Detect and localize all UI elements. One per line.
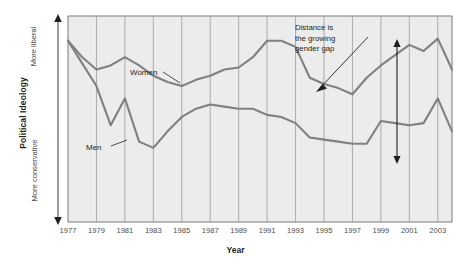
x-axis-tick-labels: 1977197919811983198519871989199119931995…	[68, 226, 452, 240]
x-axis-tick-label: 1997	[344, 226, 361, 235]
annotation-line-2: the growing	[295, 34, 369, 45]
x-axis-tick-label: 1979	[88, 226, 105, 235]
x-axis-tick-label: 1977	[60, 226, 77, 235]
gender-gap-annotation-text: Distance is the growing gender gap	[295, 23, 369, 55]
x-axis-tick-label: 1983	[145, 226, 162, 235]
x-axis-tick-label: 1991	[259, 226, 276, 235]
x-axis-tick-label: 2003	[429, 226, 446, 235]
political-ideology-gender-gap-chart: Political Ideology More liberal More con…	[0, 0, 471, 266]
x-axis-tick-label: 1993	[287, 226, 304, 235]
x-axis-tick-label: 1995	[316, 226, 333, 235]
x-axis-tick-label: 1987	[202, 226, 219, 235]
annotation-line-1: Distance is	[295, 23, 369, 34]
series-label-women: Women	[130, 68, 157, 77]
x-axis-tick-label: 1985	[173, 226, 190, 235]
x-axis-tick-label: 1981	[116, 226, 133, 235]
x-axis-tick-label: 1989	[230, 226, 247, 235]
series-label-men: Men	[86, 143, 102, 152]
x-axis-tick-label: 1999	[372, 226, 389, 235]
x-axis-tick-label: 2001	[401, 226, 418, 235]
y-axis-arrow	[54, 14, 62, 225]
annotation-line-3: gender gap	[295, 44, 369, 55]
x-axis-title: Year	[0, 245, 471, 255]
